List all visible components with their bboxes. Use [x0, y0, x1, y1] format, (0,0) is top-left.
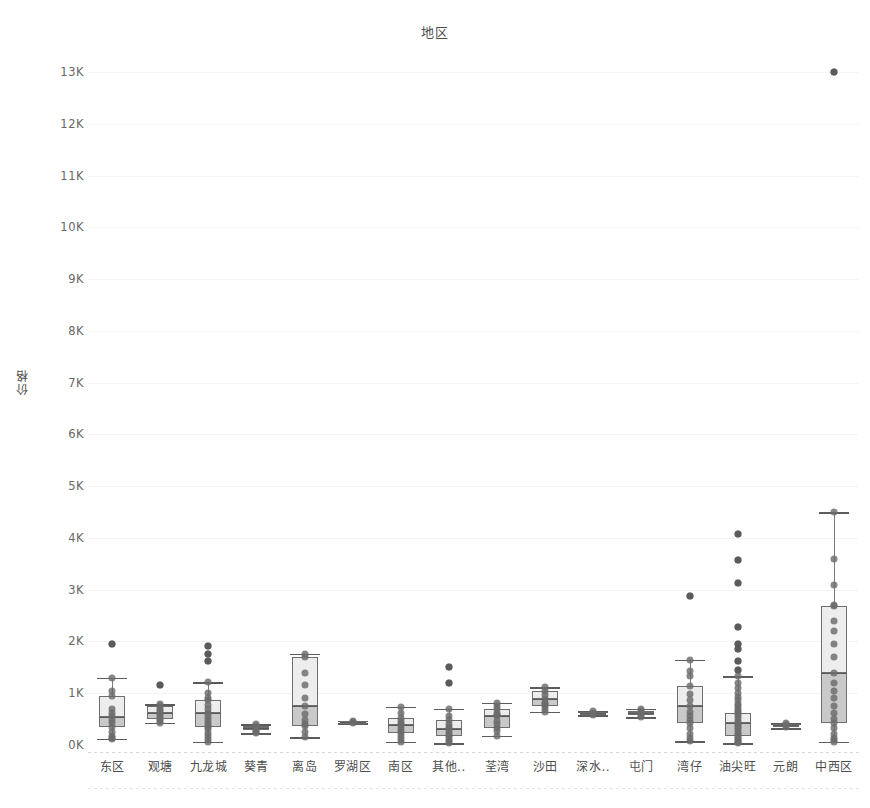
- y-tick-label: 2K: [44, 634, 84, 648]
- data-point[interactable]: [542, 708, 549, 715]
- data-point[interactable]: [638, 714, 645, 721]
- box-plot-东区[interactable]: [88, 60, 136, 750]
- data-point[interactable]: [109, 735, 116, 742]
- outlier-point[interactable]: [445, 679, 452, 686]
- box-plot-观塘[interactable]: [136, 60, 184, 750]
- data-point[interactable]: [686, 673, 693, 680]
- data-point[interactable]: [205, 738, 212, 745]
- data-point[interactable]: [445, 705, 452, 712]
- data-point[interactable]: [830, 702, 837, 709]
- outlier-point[interactable]: [734, 623, 741, 630]
- data-point[interactable]: [830, 555, 837, 562]
- y-tick-label: 7K: [44, 376, 84, 390]
- outlier-point[interactable]: [830, 69, 837, 76]
- y-tick-label: 13K: [44, 65, 84, 79]
- data-point[interactable]: [830, 679, 837, 686]
- data-point[interactable]: [590, 711, 597, 718]
- box-plot-沙田[interactable]: [521, 60, 569, 750]
- y-tick-label: 3K: [44, 583, 84, 597]
- outlier-point[interactable]: [734, 666, 741, 673]
- data-point[interactable]: [830, 669, 837, 676]
- box-plot-其他..[interactable]: [425, 60, 473, 750]
- box-upper-quartile[interactable]: [821, 606, 847, 672]
- x-axis-line: [88, 752, 860, 753]
- data-point[interactable]: [301, 682, 308, 689]
- data-point[interactable]: [830, 641, 837, 648]
- y-tick-label: 12K: [44, 117, 84, 131]
- box-plot-油尖旺[interactable]: [714, 60, 762, 750]
- data-point[interactable]: [830, 617, 837, 624]
- outlier-point[interactable]: [734, 646, 741, 653]
- data-point[interactable]: [830, 738, 837, 745]
- outlier-point[interactable]: [686, 592, 693, 599]
- box-plot-屯门[interactable]: [617, 60, 665, 750]
- box-plot-荃湾[interactable]: [473, 60, 521, 750]
- data-point[interactable]: [301, 695, 308, 702]
- x-tick-label: 其他..: [432, 757, 466, 774]
- y-tick-label: 4K: [44, 531, 84, 545]
- data-point[interactable]: [301, 734, 308, 741]
- outlier-point[interactable]: [157, 682, 164, 689]
- outlier-point[interactable]: [734, 530, 741, 537]
- y-tick-label: 10K: [44, 220, 84, 234]
- box-plot-葵青[interactable]: [232, 60, 280, 750]
- box-plot-九龙城[interactable]: [184, 60, 232, 750]
- box-plot-中西区[interactable]: [810, 60, 858, 750]
- x-axis-baseline: [88, 788, 860, 789]
- boxplot-chart: 地区 价格 13K12K11K10K9K8K7K6K5K4K3K2K1K0K 东…: [0, 0, 870, 808]
- data-point[interactable]: [445, 739, 452, 746]
- data-point[interactable]: [205, 679, 212, 686]
- data-point[interactable]: [109, 674, 116, 681]
- box-plot-深水..[interactable]: [569, 60, 617, 750]
- outlier-point[interactable]: [734, 556, 741, 563]
- y-tick-label: 1K: [44, 686, 84, 700]
- box-plot-南区[interactable]: [377, 60, 425, 750]
- data-point[interactable]: [782, 723, 789, 730]
- x-tick-label: 油尖旺: [719, 757, 757, 774]
- data-point[interactable]: [301, 702, 308, 709]
- chart-title: 地区: [0, 22, 870, 41]
- data-point[interactable]: [301, 653, 308, 660]
- box-plot-罗湖区[interactable]: [329, 60, 377, 750]
- outlier-point[interactable]: [205, 658, 212, 665]
- data-point[interactable]: [830, 653, 837, 660]
- data-point[interactable]: [830, 687, 837, 694]
- data-point[interactable]: [686, 682, 693, 689]
- data-point[interactable]: [686, 738, 693, 745]
- x-tick-label: 东区: [100, 757, 125, 774]
- data-point[interactable]: [494, 732, 501, 739]
- x-tick-label: 罗湖区: [334, 757, 372, 774]
- data-point[interactable]: [157, 719, 164, 726]
- data-point[interactable]: [349, 719, 356, 726]
- x-tick-label: 南区: [388, 757, 413, 774]
- data-point[interactable]: [830, 603, 837, 610]
- data-point[interactable]: [686, 656, 693, 663]
- box-plot-离岛[interactable]: [281, 60, 329, 750]
- data-point[interactable]: [830, 628, 837, 635]
- data-point[interactable]: [734, 740, 741, 747]
- box-plot-湾仔[interactable]: [666, 60, 714, 750]
- x-tick-label: 湾仔: [677, 757, 702, 774]
- data-point[interactable]: [301, 669, 308, 676]
- outlier-point[interactable]: [109, 641, 116, 648]
- box-plot-元朗[interactable]: [762, 60, 810, 750]
- y-tick-label: 0K: [44, 738, 84, 752]
- x-tick-label: 元朗: [773, 757, 798, 774]
- outlier-point[interactable]: [445, 664, 452, 671]
- outlier-point[interactable]: [734, 658, 741, 665]
- plot-area: [88, 60, 858, 750]
- x-tick-label: 中西区: [815, 757, 853, 774]
- data-point[interactable]: [109, 692, 116, 699]
- y-tick-label: 11K: [44, 169, 84, 183]
- x-tick-label: 观塘: [148, 757, 173, 774]
- data-point[interactable]: [397, 738, 404, 745]
- data-point[interactable]: [253, 730, 260, 737]
- outlier-point[interactable]: [734, 580, 741, 587]
- outlier-point[interactable]: [205, 643, 212, 650]
- data-point[interactable]: [830, 695, 837, 702]
- outlier-point[interactable]: [205, 650, 212, 657]
- y-tick-label: 8K: [44, 324, 84, 338]
- data-point[interactable]: [830, 581, 837, 588]
- data-point[interactable]: [830, 509, 837, 516]
- x-tick-label: 深水..: [576, 757, 610, 774]
